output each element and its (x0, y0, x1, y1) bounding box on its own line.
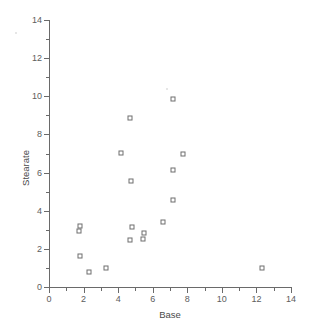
y-tick-minor (46, 268, 49, 269)
x-tick-label: 6 (150, 294, 155, 304)
y-tick-major (44, 58, 49, 59)
x-tick-minor (274, 288, 275, 291)
y-tick-minor (46, 192, 49, 193)
x-tick-minor (101, 288, 102, 291)
data-point (128, 116, 133, 121)
scan-artifact-speck (167, 88, 168, 89)
x-tick-minor (66, 288, 67, 291)
y-tick-label: 2 (37, 244, 42, 254)
data-point (129, 224, 134, 229)
y-tick-major (44, 96, 49, 97)
data-point (171, 198, 176, 203)
data-point (78, 253, 83, 258)
data-point (141, 237, 146, 242)
data-point (260, 265, 265, 270)
y-tick-major (44, 249, 49, 250)
y-tick-minor (46, 154, 49, 155)
y-tick-label: 8 (37, 129, 42, 139)
y-tick-major (44, 173, 49, 174)
y-tick-major (44, 134, 49, 135)
y-tick-minor (46, 77, 49, 78)
data-point (170, 167, 175, 172)
y-tick-minor (46, 230, 49, 231)
x-tick-label: 10 (217, 294, 227, 304)
data-point (142, 230, 147, 235)
x-tick-major (84, 288, 85, 293)
x-tick-major (49, 288, 50, 293)
x-tick-minor (135, 288, 136, 291)
x-tick-major (222, 288, 223, 293)
data-point (161, 220, 166, 225)
y-tick-minor (46, 39, 49, 40)
data-point (118, 150, 123, 155)
y-tick-label: 14 (32, 15, 42, 25)
plot-area: 02468101214 02468101214 Base Stearate (0, 0, 315, 331)
y-tick-major (44, 287, 49, 288)
data-point (170, 97, 175, 102)
x-tick-label: 4 (116, 294, 121, 304)
scan-artifact-speck (16, 33, 17, 34)
y-tick-label: 10 (32, 91, 42, 101)
x-tick-minor (205, 288, 206, 291)
x-tick-label: 14 (286, 294, 296, 304)
y-tick-major (44, 211, 49, 212)
data-point (180, 152, 185, 157)
x-tick-label: 2 (81, 294, 86, 304)
y-tick-minor (46, 115, 49, 116)
y-tick-label: 6 (37, 168, 42, 178)
y-tick-major (44, 20, 49, 21)
y-tick-label: 12 (32, 53, 42, 63)
x-tick-label: 0 (46, 294, 51, 304)
x-tick-minor (239, 288, 240, 291)
y-tick-label: 4 (37, 206, 42, 216)
y-tick-label: 0 (37, 282, 42, 292)
y-axis-line (49, 20, 50, 288)
y-axis-title: Stearate (20, 150, 31, 186)
data-point (86, 270, 91, 275)
data-point (104, 265, 109, 270)
x-tick-label: 8 (185, 294, 190, 304)
scatter-plot-figure: 02468101214 02468101214 Base Stearate (0, 0, 315, 331)
x-tick-major (291, 288, 292, 293)
x-tick-minor (170, 288, 171, 291)
x-tick-label: 12 (251, 294, 261, 304)
data-point (129, 179, 134, 184)
x-tick-major (118, 288, 119, 293)
data-point (77, 228, 82, 233)
x-tick-major (153, 288, 154, 293)
x-axis-title: Base (159, 309, 181, 320)
data-point (128, 238, 133, 243)
x-tick-major (256, 288, 257, 293)
x-tick-major (187, 288, 188, 293)
